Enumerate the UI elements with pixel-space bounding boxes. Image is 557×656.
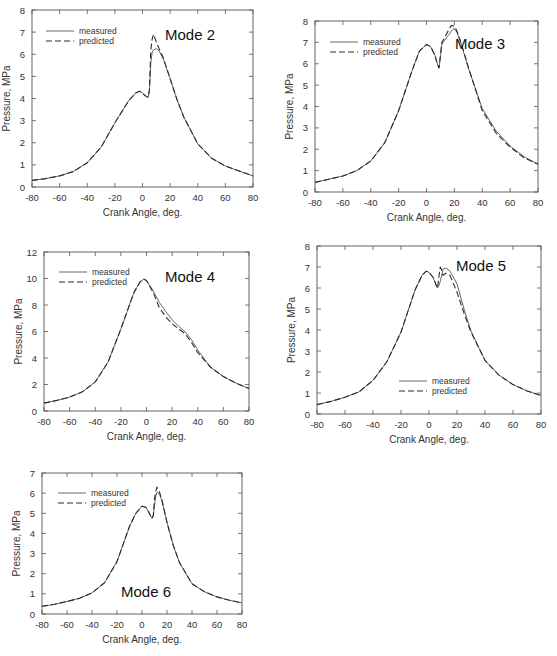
x-tick-label: -40 (366, 419, 380, 430)
y-tick-label: 8 (305, 241, 310, 252)
y-tick-label: 5 (305, 304, 310, 315)
legend-label-measured: measured (363, 37, 401, 47)
y-tick-label: 6 (305, 283, 310, 294)
y-tick-label: 0 (30, 609, 35, 620)
x-tick-label: -60 (60, 619, 74, 630)
y-tick-label: 2 (32, 379, 37, 390)
series-measured (44, 279, 249, 403)
y-tick-label: 3 (30, 548, 35, 559)
y-tick-label: 7 (305, 262, 310, 273)
x-tick-label: 60 (218, 416, 229, 427)
x-tick-label: 80 (237, 619, 248, 630)
x-tick-label: 40 (192, 192, 203, 203)
x-tick-label: -60 (336, 197, 350, 208)
y-tick-label: 8 (20, 5, 25, 16)
plot-frame (44, 252, 249, 411)
series-predicted (317, 267, 541, 405)
chart-mode3: -80-60-40-20020406080012345678Crank Angl… (284, 16, 543, 224)
chart-mode2: -80-60-40-20020406080012345678Crank Angl… (1, 5, 258, 219)
legend-label-measured: measured (432, 376, 470, 386)
y-axis-label: Pressure, MPa (11, 510, 22, 577)
x-tick-label: 20 (162, 619, 173, 630)
legend: measuredpredicted (399, 376, 470, 396)
y-tick-label: 8 (303, 16, 308, 27)
x-tick-label: -80 (308, 197, 322, 208)
legend: measuredpredicted (58, 488, 129, 508)
chart-title: Mode 3 (455, 35, 505, 52)
y-tick-label: 7 (303, 37, 308, 48)
x-tick-label: -40 (88, 416, 102, 427)
x-tick-label: 40 (480, 419, 491, 430)
y-axis-label: Pressure, MPa (286, 296, 297, 363)
chart-mode4: -80-60-40-20020406080024681012Crank Angl… (13, 247, 254, 443)
y-tick-label: 1 (20, 159, 25, 170)
y-tick-label: 2 (305, 367, 310, 378)
x-tick-label: -40 (80, 192, 94, 203)
y-tick-label: 4 (20, 93, 25, 104)
y-tick-label: 6 (30, 488, 35, 499)
y-tick-label: 6 (32, 326, 37, 337)
legend-label-predicted: predicted (432, 386, 467, 396)
x-tick-label: 80 (248, 192, 259, 203)
legend-label-predicted: predicted (92, 277, 127, 287)
y-axis-label: Pressure, MPa (284, 73, 295, 140)
legend: measuredpredicted (46, 26, 117, 46)
chart-title: Mode 4 (165, 268, 215, 285)
x-tick-label: -40 (364, 197, 378, 208)
x-tick-label: -60 (63, 416, 77, 427)
legend-label-measured: measured (92, 267, 130, 277)
x-tick-label: -20 (108, 192, 122, 203)
y-tick-label: 4 (305, 325, 310, 336)
x-axis-label: Crank Angle, deg. (102, 634, 182, 645)
chart-title: Mode 6 (121, 583, 171, 600)
x-tick-label: -20 (394, 419, 408, 430)
x-tick-label: -80 (25, 192, 39, 203)
y-tick-label: 1 (303, 165, 308, 176)
legend-label-predicted: predicted (363, 47, 398, 57)
chart-title: Mode 2 (165, 26, 215, 43)
x-tick-label: 20 (167, 416, 178, 427)
legend-label-measured: measured (79, 26, 117, 36)
y-tick-label: 8 (32, 300, 37, 311)
x-tick-label: -80 (37, 416, 51, 427)
x-tick-label: 80 (533, 197, 544, 208)
x-tick-label: -20 (114, 416, 128, 427)
y-tick-label: 3 (20, 115, 25, 126)
x-tick-label: 80 (536, 419, 547, 430)
chart-mode5: -80-60-40-20020406080012345678Crank Angl… (286, 241, 546, 446)
series-predicted (32, 34, 253, 180)
plot-frame (32, 10, 253, 187)
legend-label-measured: measured (91, 488, 129, 498)
legend-label-predicted: predicted (79, 36, 114, 46)
y-tick-label: 4 (30, 528, 35, 539)
plot-frame (317, 246, 541, 414)
x-tick-label: -80 (310, 419, 324, 430)
y-tick-label: 7 (30, 468, 35, 479)
x-tick-label: 0 (144, 416, 149, 427)
legend: measuredpredicted (59, 267, 130, 287)
x-tick-label: 60 (212, 619, 223, 630)
y-tick-label: 0 (32, 406, 37, 417)
y-axis-label: Pressure, MPa (1, 65, 12, 132)
y-tick-label: 2 (303, 144, 308, 155)
legend: measuredpredicted (330, 37, 401, 57)
y-tick-label: 2 (20, 137, 25, 148)
x-tick-label: -60 (53, 192, 67, 203)
x-axis-label: Crank Angle, deg. (387, 212, 467, 223)
x-tick-label: 0 (139, 619, 144, 630)
series-measured (32, 49, 253, 181)
x-tick-label: 20 (165, 192, 176, 203)
figure-canvas: -80-60-40-20020406080012345678Crank Angl… (0, 0, 557, 656)
y-tick-label: 6 (303, 58, 308, 69)
x-tick-label: 60 (508, 419, 519, 430)
y-axis-label: Pressure, MPa (13, 298, 24, 365)
x-tick-label: 60 (220, 192, 231, 203)
y-tick-label: 0 (303, 187, 308, 198)
x-tick-label: 40 (477, 197, 488, 208)
x-tick-label: 20 (452, 419, 463, 430)
x-tick-label: 0 (426, 419, 431, 430)
y-tick-label: 10 (26, 273, 37, 284)
y-tick-label: 5 (30, 508, 35, 519)
x-tick-label: -20 (110, 619, 124, 630)
y-tick-label: 4 (32, 353, 37, 364)
